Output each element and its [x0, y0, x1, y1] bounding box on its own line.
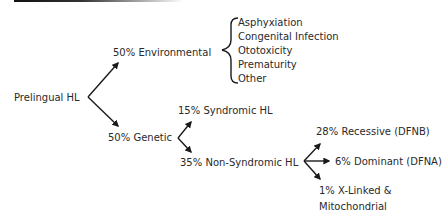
environmental-label: 50% Environmental: [113, 47, 211, 58]
non-syndromic-fork-arrows: [304, 144, 329, 179]
root-fork-arrows: [88, 63, 118, 126]
hearing-loss-diagram: Prelingual HL 50% Environmental Asphyxia…: [0, 0, 445, 223]
cause-congenital-infection: Congenital Infection: [238, 31, 339, 42]
genetic-fork-arrows: [178, 122, 191, 152]
brace-icon: [222, 18, 238, 83]
non-syndromic-label: 35% Non-Syndromic HL: [180, 157, 299, 168]
cause-asphyxiation: Asphyxiation: [238, 17, 303, 28]
root-label: Prelingual HL: [14, 92, 80, 103]
environmental-causes-list: Asphyxiation Congenital Infection Ototox…: [238, 17, 339, 84]
cause-prematurity: Prematurity: [238, 59, 297, 70]
dominant-label: 6% Dominant (DFNA): [335, 156, 442, 167]
recessive-label: 28% Recessive (DFNB): [316, 126, 430, 137]
cause-ototoxicity: Ototoxicity: [238, 45, 293, 56]
x-linked-label-line2: Mitochondrial: [319, 201, 387, 212]
x-linked-label-line1: 1% X-Linked &: [319, 185, 392, 196]
genetic-label: 50% Genetic: [108, 132, 172, 143]
cause-other: Other: [238, 73, 267, 84]
syndromic-label: 15% Syndromic HL: [178, 105, 273, 116]
